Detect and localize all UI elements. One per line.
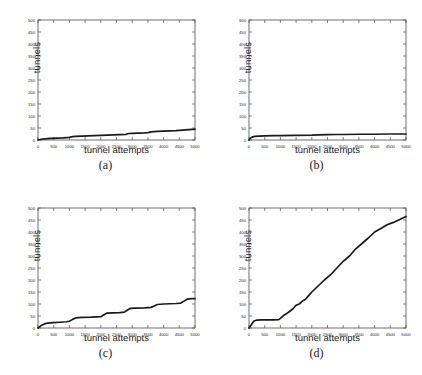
panel-caption-a-text: (a): [99, 158, 112, 173]
panel-caption-c-text: (c): [99, 346, 112, 361]
svg-text:400: 400: [28, 42, 36, 47]
x-axis-label-b: tunnel attempts: [249, 144, 406, 155]
svg-text:50: 50: [30, 314, 35, 319]
svg-text:150: 150: [28, 290, 36, 295]
svg-text:250: 250: [28, 78, 36, 83]
svg-text:300: 300: [239, 66, 247, 71]
svg-text:300: 300: [28, 66, 36, 71]
svg-text:400: 400: [28, 230, 36, 235]
svg-text:450: 450: [239, 30, 247, 35]
svg-text:350: 350: [28, 242, 36, 247]
svg-text:250: 250: [239, 78, 247, 83]
panel-b: tunnels 05001000150020002500300035004000…: [211, 0, 422, 187]
svg-text:400: 400: [239, 230, 247, 235]
plot-area-b: tunnels 05001000150020002500300035004000…: [211, 0, 422, 158]
panel-d: tunnels 05001000150020002500300035004000…: [211, 188, 422, 375]
svg-text:300: 300: [28, 254, 36, 259]
svg-text:150: 150: [239, 290, 247, 295]
svg-text:450: 450: [28, 218, 36, 223]
svg-text:100: 100: [28, 302, 36, 307]
x-axis-label-c: tunnel attempts: [38, 332, 195, 343]
svg-text:300: 300: [239, 254, 247, 259]
svg-text:150: 150: [239, 102, 247, 107]
svg-text:0: 0: [244, 326, 247, 331]
svg-text:200: 200: [28, 90, 36, 95]
svg-text:250: 250: [28, 266, 36, 271]
panel-caption-d-text: (d): [310, 346, 324, 361]
svg-text:50: 50: [30, 126, 35, 131]
svg-text:400: 400: [239, 42, 247, 47]
svg-text:200: 200: [239, 90, 247, 95]
panel-caption-b: (b): [211, 158, 422, 173]
panel-caption-c: (c): [0, 346, 211, 361]
svg-text:100: 100: [239, 302, 247, 307]
svg-text:500: 500: [239, 206, 247, 211]
svg-text:50: 50: [241, 126, 246, 131]
svg-text:150: 150: [28, 102, 36, 107]
svg-text:450: 450: [28, 30, 36, 35]
svg-text:500: 500: [28, 18, 36, 23]
chart-svg-a: 0500100015002000250030003500400045005000…: [0, 0, 211, 158]
svg-text:200: 200: [239, 278, 247, 283]
svg-text:0: 0: [33, 138, 36, 143]
panel-caption-b-text: (b): [310, 158, 324, 173]
svg-text:350: 350: [239, 242, 247, 247]
svg-text:0: 0: [33, 326, 36, 331]
chart-svg-b: 0500100015002000250030003500400045005000…: [211, 0, 422, 158]
svg-text:350: 350: [28, 54, 36, 59]
panel-caption-a: (a): [0, 158, 211, 173]
panel-a: tunnels 05001000150020002500300035004000…: [0, 0, 211, 187]
svg-text:50: 50: [241, 314, 246, 319]
plot-area-a: tunnels 05001000150020002500300035004000…: [0, 0, 211, 158]
svg-text:250: 250: [239, 266, 247, 271]
panel-c: tunnels 05001000150020002500300035004000…: [0, 188, 211, 375]
plot-area-c: tunnels 05001000150020002500300035004000…: [0, 188, 211, 346]
chart-svg-c: 0500100015002000250030003500400045005000…: [0, 188, 211, 346]
svg-text:350: 350: [239, 54, 247, 59]
svg-text:450: 450: [239, 218, 247, 223]
svg-text:500: 500: [239, 18, 247, 23]
x-axis-label-d: tunnel attempts: [249, 332, 406, 343]
svg-text:100: 100: [239, 114, 247, 119]
svg-text:200: 200: [28, 278, 36, 283]
svg-text:500: 500: [28, 206, 36, 211]
chart-svg-d: 0500100015002000250030003500400045005000…: [211, 188, 422, 346]
svg-text:100: 100: [28, 114, 36, 119]
svg-text:0: 0: [244, 138, 247, 143]
x-axis-label-a: tunnel attempts: [38, 144, 195, 155]
figure-four-panel-line-charts: tunnels 05001000150020002500300035004000…: [0, 0, 422, 375]
panel-caption-d: (d): [211, 346, 422, 361]
plot-area-d: tunnels 05001000150020002500300035004000…: [211, 188, 422, 346]
